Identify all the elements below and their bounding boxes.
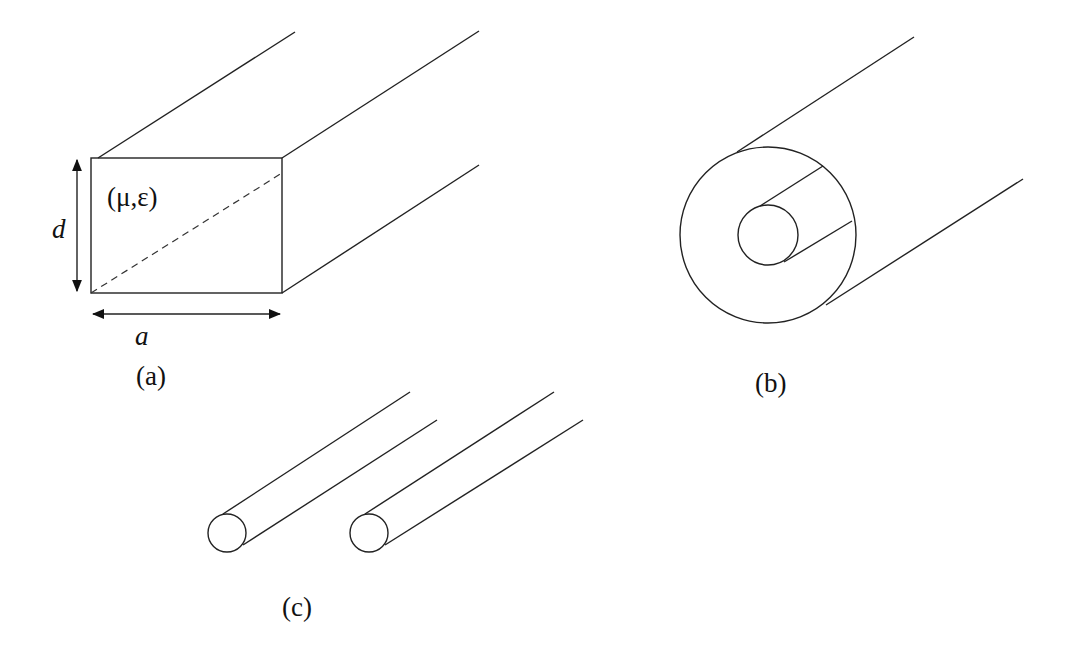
- caption-a: (a): [136, 361, 166, 391]
- wire-2-end: [350, 514, 388, 552]
- height-label: d: [52, 214, 66, 244]
- transmission-line-diagram: (μ,ε) d a (a) (b) (c): [0, 0, 1074, 663]
- width-label: a: [135, 321, 149, 351]
- inner-bottom-edge: [784, 221, 852, 262]
- caption-c: (c): [282, 592, 312, 622]
- wire-2-top-edge: [365, 392, 554, 514]
- wire-1-end: [208, 514, 246, 552]
- panel-a-rectangular-waveguide: (μ,ε) d a (a): [52, 31, 479, 391]
- caption-b: (b): [755, 368, 786, 398]
- wire-1-top-edge: [223, 392, 410, 514]
- waveguide-top-left-edge: [98, 32, 295, 158]
- panel-c-two-wire-line: (c): [208, 392, 583, 622]
- waveguide-bottom-right-edge: [282, 165, 479, 293]
- waveguide-top-right-edge: [282, 31, 479, 158]
- material-label: (μ,ε): [107, 182, 158, 212]
- waveguide-cross-section: [91, 158, 282, 293]
- panel-b-coaxial-line: (b): [680, 37, 1023, 398]
- inner-conductor: [738, 205, 798, 265]
- inner-top-edge: [760, 166, 823, 206]
- outer-top-edge: [737, 37, 914, 152]
